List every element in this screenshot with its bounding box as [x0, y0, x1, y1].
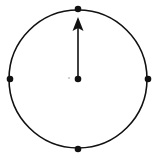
marker-dot-bottom [75, 146, 82, 153]
clock-dial-diagram [0, 0, 156, 157]
marker-dot-left [7, 76, 14, 83]
faint-dot [68, 77, 70, 79]
marker-dot-top [75, 6, 82, 13]
marker-dot-right [145, 76, 152, 83]
